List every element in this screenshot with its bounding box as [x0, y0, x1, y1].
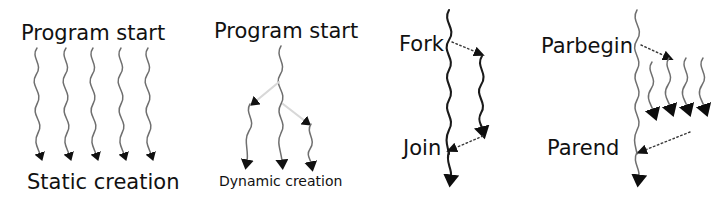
fork-dotted-arrow	[452, 42, 476, 52]
spawn-branch-left	[256, 82, 279, 101]
thread-squiggle	[63, 48, 69, 154]
child-thread-squiggle	[308, 124, 312, 163]
label-program-start-static: Program start	[21, 21, 165, 45]
parent-continuation-squiggle	[635, 152, 639, 176]
parbegin-dotted-arrow	[641, 45, 665, 56]
thread-squiggle	[145, 48, 151, 154]
process-creation-diagram: Program start Static creation Program st…	[0, 0, 720, 197]
parallel-thread-squiggle	[665, 58, 670, 106]
spawn-branch-right	[283, 104, 305, 121]
joined-thread-squiggle	[448, 152, 451, 176]
label-fork: Fork	[399, 32, 445, 56]
label-program-start-dynamic: Program start	[214, 19, 358, 43]
join-dotted-arrow	[455, 136, 483, 148]
panel-static-creation: Program start Static creation	[21, 21, 179, 194]
forked-thread-squiggle	[479, 56, 484, 128]
panel-dynamic-creation: Program start Dynamic creation	[214, 19, 358, 189]
diagram-canvas: Program start Static creation Program st…	[0, 0, 720, 197]
thread-squiggle	[90, 48, 96, 154]
label-dynamic-creation: Dynamic creation	[219, 173, 342, 189]
child-thread-squiggle	[246, 104, 251, 161]
parallel-thread-squiggle	[648, 62, 653, 110]
label-parend: Parend	[547, 136, 619, 160]
panel-fork-join: Fork Join	[399, 10, 484, 176]
thread-squiggle	[34, 48, 40, 154]
label-parbegin: Parbegin	[541, 34, 633, 58]
main-thread-squiggle	[447, 10, 452, 154]
parallel-thread-squiggle	[682, 58, 687, 106]
label-join: Join	[401, 136, 441, 160]
label-static-creation: Static creation	[27, 170, 179, 194]
parallel-thread-squiggle	[699, 58, 704, 106]
static-thread-bundle	[34, 48, 151, 154]
panel-parbegin-parend: Parbegin Parend	[541, 10, 705, 176]
parent-thread-squiggle	[635, 10, 640, 154]
parend-dotted-arrow	[645, 132, 690, 150]
thread-squiggle	[118, 48, 124, 154]
parallel-thread-bundle	[648, 58, 704, 110]
